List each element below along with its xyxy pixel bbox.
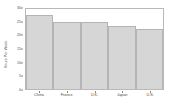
x-tick-mark [39,91,40,93]
plot-area [25,8,164,90]
y-tick-mark [21,62,23,63]
x-axis-tick-labels: ChinaFranceU.K.JapanU.S. [25,91,164,99]
bar [81,22,108,89]
bar [108,26,135,89]
y-tick-mark [21,90,23,91]
y-tick-mark [21,49,23,50]
y-axis-tick-labels: 051015202530 [10,8,23,90]
x-tick-mark [122,91,123,93]
x-tick-mark [150,91,151,93]
bar [26,15,53,89]
y-tick-mark [21,21,23,22]
bar-series [26,9,163,89]
bar-chart: Hours Per Week 051015202530 ChinaFranceU… [0,0,170,109]
y-tick-mark [21,76,23,77]
y-tick-mark [21,35,23,36]
x-tick-mark [67,91,68,93]
x-tick-mark [95,91,96,93]
bar [53,22,80,89]
y-tick-mark [21,8,23,9]
bar [136,29,163,89]
